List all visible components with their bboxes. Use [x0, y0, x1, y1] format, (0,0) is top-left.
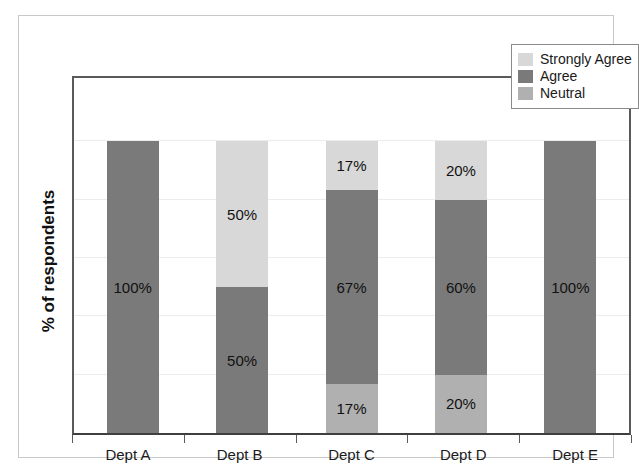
y-axis-title: % of respondents — [35, 166, 63, 356]
bar-series-group: 100%50%50%17%67%17%20%60%20%100% — [74, 78, 629, 433]
x-axis-label: Dept A — [72, 446, 184, 472]
bar-stack[interactable]: 20%60%20% — [435, 141, 487, 433]
x-axis-tick — [407, 435, 408, 443]
legend-label: Neutral — [540, 85, 585, 101]
legend-label: Strongly Agree — [540, 51, 632, 67]
bar-segment[interactable]: 60% — [435, 200, 487, 375]
bar-segment[interactable]: 20% — [435, 375, 487, 433]
x-axis-label: Dept C — [296, 446, 408, 472]
bar-stack[interactable]: 17%67%17% — [326, 141, 378, 433]
x-axis-label: Dept E — [519, 446, 631, 472]
x-axis-label: Dept B — [184, 446, 296, 472]
x-axis-label: Dept D — [407, 446, 519, 472]
bar-segment[interactable]: 17% — [326, 384, 378, 433]
legend-item[interactable]: Neutral — [518, 85, 632, 101]
x-axis-tick — [296, 435, 297, 443]
bar-segment[interactable]: 100% — [107, 141, 159, 433]
y-axis-title-text: % of respondents — [39, 190, 59, 333]
bar-column: 100% — [516, 78, 625, 433]
chart-legend: Strongly AgreeAgreeNeutral — [511, 44, 639, 109]
bar-stack[interactable]: 100% — [107, 141, 159, 433]
legend-swatch-icon — [518, 53, 533, 66]
x-axis-tick — [184, 435, 185, 443]
bar-segment[interactable]: 67% — [326, 190, 378, 384]
legend-item[interactable]: Strongly Agree — [518, 51, 632, 67]
bar-stack[interactable]: 50%50% — [216, 141, 268, 433]
bar-segment[interactable]: 100% — [544, 141, 596, 433]
legend-swatch-icon — [518, 70, 533, 83]
x-axis-tick — [631, 435, 632, 443]
x-axis-tick — [72, 435, 73, 443]
legend-item[interactable]: Agree — [518, 68, 632, 84]
bar-column: 50%50% — [187, 78, 296, 433]
chart-frame: % of respondents 100%50%50%17%67%17%20%6… — [18, 15, 614, 458]
bar-column: 17%67%17% — [297, 78, 406, 433]
bar-column: 20%60%20% — [406, 78, 515, 433]
bar-column: 100% — [78, 78, 187, 433]
x-axis-tick — [519, 435, 520, 443]
bar-stack[interactable]: 100% — [544, 141, 596, 433]
legend-label: Agree — [540, 68, 577, 84]
legend-swatch-icon — [518, 87, 533, 100]
plot-area: 100%50%50%17%67%17%20%60%20%100% — [72, 76, 631, 435]
x-axis-labels: Dept ADept BDept CDept DDept E — [72, 446, 631, 472]
bar-segment[interactable]: 20% — [435, 141, 487, 199]
bar-segment[interactable]: 50% — [216, 141, 268, 287]
x-axis-ticks — [72, 435, 631, 444]
bar-segment[interactable]: 50% — [216, 287, 268, 433]
bar-segment[interactable]: 17% — [326, 141, 378, 190]
